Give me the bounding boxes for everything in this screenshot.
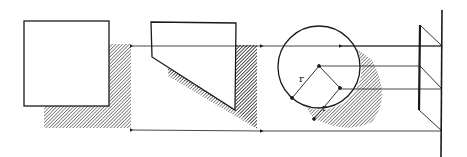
radius-label-2: r <box>322 102 327 113</box>
elevation-view <box>419 10 442 157</box>
square-shape <box>24 21 109 106</box>
circle-shadow <box>306 48 382 128</box>
radius-label-1: r <box>299 73 304 84</box>
diagram-canvas: r r <box>0 0 467 157</box>
pentagon-shape <box>151 22 236 110</box>
